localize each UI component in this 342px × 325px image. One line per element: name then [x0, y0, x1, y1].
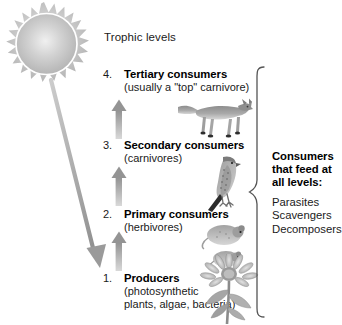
side-note-heading: Consumers that feed at all levels: — [272, 150, 334, 190]
up-arrow-icon — [110, 99, 128, 139]
list-item: Decomposers — [272, 223, 342, 236]
level-number: 2. — [103, 208, 119, 220]
side-note-heading-line-3: all levels: — [272, 176, 334, 189]
sun-ray-arrow-icon — [40, 78, 115, 274]
level-number: 1. — [103, 272, 119, 284]
list-item: Parasites — [272, 196, 342, 209]
up-arrow-icon — [110, 231, 128, 271]
side-note-heading-line-2: that feed at — [272, 163, 334, 176]
level-subtitle: (usually a "top" carnivore) — [124, 81, 249, 94]
curly-brace-icon — [248, 66, 276, 318]
diagram-title: Trophic levels — [104, 31, 176, 43]
level-title: Tertiary consumers — [124, 68, 249, 81]
fox-illustration — [176, 98, 254, 144]
level-number: 3. — [103, 139, 119, 151]
falcon-illustration — [196, 154, 252, 214]
side-note-list: Parasites Scavengers Decomposers — [272, 196, 342, 236]
list-item: Scavengers — [272, 209, 342, 222]
side-note-heading-line-1: Consumers — [272, 150, 334, 163]
up-arrow-icon — [110, 166, 128, 206]
level-number: 4. — [103, 68, 119, 80]
